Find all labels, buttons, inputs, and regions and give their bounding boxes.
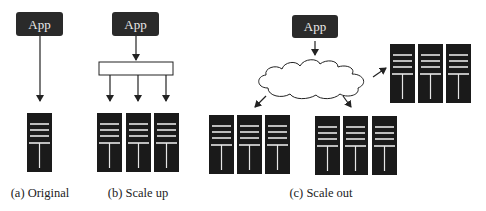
- load-balancer-box: [99, 62, 173, 75]
- panel-scale-out: App (c) Scale out: [209, 15, 471, 200]
- app-label: App: [124, 17, 146, 32]
- arrow: [373, 68, 386, 77]
- server-group-bottom-middle: [315, 116, 397, 175]
- server-icon: [265, 115, 290, 174]
- server-icon: [209, 115, 234, 174]
- arrow: [255, 96, 266, 107]
- panel-scale-up: App (b) Scale up: [97, 12, 179, 200]
- server-icon: [237, 115, 262, 174]
- server-icon: [154, 113, 179, 172]
- app-label: App: [304, 19, 326, 34]
- arrow: [343, 96, 351, 107]
- server-icon: [97, 113, 122, 172]
- server-icon: [27, 113, 52, 172]
- app-box: App: [292, 15, 338, 38]
- app-box: App: [112, 12, 159, 36]
- server-icon: [418, 44, 443, 103]
- cloud-icon: [259, 60, 364, 99]
- panel-original: App (a) Original: [11, 12, 70, 200]
- caption: (c) Scale out: [289, 186, 353, 200]
- server-group-upper-right: [390, 44, 471, 103]
- server-icon: [372, 116, 397, 175]
- caption: (b) Scale up: [108, 186, 168, 200]
- scaling-diagram: App (a) Original App (b) Scale up App: [0, 0, 486, 211]
- app-label: App: [28, 17, 50, 32]
- server-icon: [343, 116, 368, 175]
- server-icon: [390, 44, 415, 103]
- server-group-bottom-left: [209, 115, 290, 174]
- server-icon: [446, 44, 471, 103]
- server-icon: [126, 113, 151, 172]
- app-box: App: [16, 12, 63, 36]
- caption: (a) Original: [11, 186, 70, 200]
- server-icon: [315, 116, 340, 175]
